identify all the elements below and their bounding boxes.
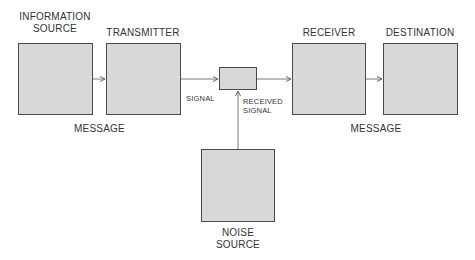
transmitter-box — [106, 43, 181, 115]
transmitter-label: TRANSMITTER — [98, 27, 188, 39]
destination-label: DESTINATION — [376, 27, 464, 39]
information-source-label-line1: INFORMATION — [2, 11, 108, 23]
information-source-label: INFORMATION SOURCE — [2, 11, 108, 35]
receiver-box — [292, 43, 366, 115]
channel-box — [219, 67, 257, 90]
noise-source-label: NOISE SOURCE — [198, 227, 278, 251]
noise-source-label-line2: SOURCE — [198, 239, 278, 251]
message-right-label: MESSAGE — [346, 123, 406, 135]
received-signal-line2: SIGNAL — [243, 106, 283, 115]
information-source-label-line2: SOURCE — [2, 23, 108, 35]
message-left-label: MESSAGE — [74, 123, 124, 135]
receiver-label: RECEIVER — [292, 27, 366, 39]
destination-box — [383, 43, 458, 115]
information-source-box — [18, 43, 93, 115]
signal-label: SIGNAL — [186, 94, 215, 103]
noise-source-box — [201, 149, 275, 222]
received-signal-label: RECEIVED SIGNAL — [243, 97, 283, 115]
noise-source-label-line1: NOISE — [198, 227, 278, 239]
received-signal-line1: RECEIVED — [243, 97, 283, 106]
